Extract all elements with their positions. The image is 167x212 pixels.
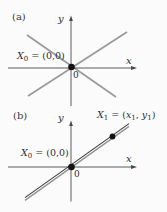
panel-b-origin-tick: 0 [74,169,80,180]
panel-a-x0-var: X [17,50,24,61]
panel-b-x1-eq: = ( [108,109,126,120]
panel-b-x-axis-arrowhead-icon [131,165,137,169]
panel-b-tag: (b) [13,110,27,121]
panel-a-y-axis-label: y [58,13,64,24]
panel-b-y-axis-arrowhead-icon [69,121,73,127]
math-figure: (a) y x X0 = (0,0) 0 (b) y x X0 = (0,0) … [0,0,167,212]
panel-a-tag: (a) [12,11,26,22]
panel-a-line-ascending [28,32,127,96]
panel-b-point-x0-label: X0 = (0,0) [21,147,69,160]
panel-b-x0-var: X [21,147,28,158]
panel-b-x0-coords: = (0,0) [32,147,69,158]
panel-a-x0-coords: = (0,0) [28,50,65,61]
panel-a-x-axis-label: x [126,55,132,66]
panel-a-x-axis-arrowhead-icon [131,66,137,70]
panel-b-x-axis-label: x [126,153,132,164]
panel-a-origin-tick: 0 [73,70,79,81]
panel-b-point-x1 [110,134,116,140]
panel-b-point-x1-label: X1 = (x1, y1) [97,109,155,122]
panel-b-x1-var: X [97,109,104,120]
panel-a-point-x0-label: X0 = (0,0) [17,50,65,63]
panel-b-y-axis-label: y [58,112,64,123]
panel-b-x1-close: ) [152,109,156,120]
panel-a-y-axis-arrowhead-icon [69,16,73,22]
